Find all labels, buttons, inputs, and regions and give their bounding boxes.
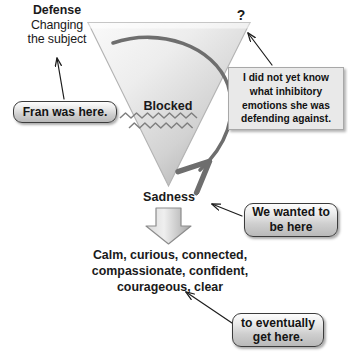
label-defense-detail: Changing the subject	[4, 19, 110, 47]
label-defense: Defense	[6, 4, 108, 18]
callout-to-eventually-get-here: to eventually get here.	[232, 313, 324, 347]
pointer-wanted-to-sadness	[212, 204, 242, 216]
callout-we-wanted-to-be-here: We wanted to be here	[244, 203, 338, 237]
down-block-arrow	[146, 208, 191, 244]
label-outcome-states: Calm, curious, connected, compassionate,…	[50, 248, 290, 296]
pointer-eventually-to-outcome	[186, 292, 232, 323]
label-question-mark: ?	[232, 8, 250, 24]
diagram-graphics	[0, 0, 348, 358]
callout-fran-was-here: Fran was here.	[13, 101, 117, 123]
diagram-canvas: Defense Changing the subject ? Blocked S…	[0, 0, 348, 358]
label-sadness: Sadness	[128, 190, 210, 204]
pointer-inhibitory-to-question	[248, 33, 272, 65]
label-blocked: Blocked	[128, 99, 208, 113]
pointer-fran-to-defense	[57, 58, 64, 99]
callout-inhibitory-emotions: I did not yet know what inhibitory emoti…	[228, 67, 344, 130]
